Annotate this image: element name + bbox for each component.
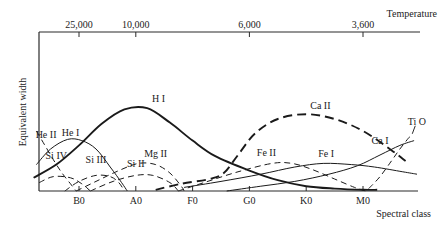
series-label-he-ii: He II xyxy=(36,129,57,140)
series-label-he-i: He I xyxy=(62,127,80,138)
series-line-si-ii xyxy=(90,175,178,191)
series-label-ca-i: Ca I xyxy=(372,135,389,146)
top-tick-label: 25,000 xyxy=(65,19,93,30)
top-tick-label: 6,000 xyxy=(238,19,261,30)
curves xyxy=(34,107,417,191)
x-tick-label: F0 xyxy=(187,195,198,206)
x-tick-label: B0 xyxy=(73,195,85,206)
series-label-si-iv: Si IV xyxy=(46,150,68,161)
x-tick-label: A0 xyxy=(130,195,142,206)
series-label-ti-o: Ti O xyxy=(408,116,426,127)
series-label-si-iii: Si III xyxy=(86,154,107,165)
x-tick-label: G0 xyxy=(243,195,255,206)
tio-leader-line xyxy=(412,126,415,134)
series-label-ca-ii: Ca II xyxy=(310,100,330,111)
series-label-si-ii: Si II xyxy=(127,158,145,169)
spectral-line-strength-chart: Temperature Spectral class Equivalent wi… xyxy=(0,0,441,226)
top-tick-label: 3,600 xyxy=(352,19,375,30)
series-line-si-iv xyxy=(39,176,90,191)
series-line-fe-ii xyxy=(178,162,365,191)
x-tick-label: M0 xyxy=(356,195,370,206)
series-line-ca-ii xyxy=(156,114,406,190)
series-label-mg-ii: Mg II xyxy=(144,148,167,159)
labels: Temperature Spectral class Equivalent wi… xyxy=(17,8,438,219)
series-label-fe-ii: Fe II xyxy=(257,147,276,158)
x-tick-label: K0 xyxy=(300,195,312,206)
series-line-he-i xyxy=(36,139,127,191)
y-axis-title: Equivalent width xyxy=(17,78,28,147)
top-axis-title: Temperature xyxy=(387,8,438,19)
series-label-fe-i: Fe I xyxy=(318,148,334,159)
series-label-h-i: H I xyxy=(152,93,165,104)
top-tick-label: 10,000 xyxy=(122,19,150,30)
series-line-fe-i xyxy=(184,163,417,187)
x-axis-title: Spectral class xyxy=(376,208,431,219)
